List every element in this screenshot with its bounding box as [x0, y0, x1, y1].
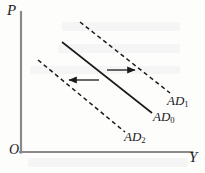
curve-label-ad2-subscript: 2	[141, 135, 145, 145]
curve-label-ad1: AD1	[167, 94, 189, 109]
curve-label-ad1-subscript: 1	[184, 99, 188, 109]
curve-label-ad2: AD2	[124, 130, 146, 145]
curve-label-ad2-base: AD	[124, 129, 141, 144]
curve-ad2	[38, 60, 125, 132]
price-level-axis-label: P	[7, 3, 16, 18]
curve-label-ad0-subscript: 0	[170, 115, 174, 125]
output-axis-label: Y	[189, 150, 197, 165]
diagram-canvas	[0, 0, 205, 173]
curve-ad1	[80, 22, 170, 93]
origin-label: O	[9, 143, 19, 157]
curve-label-ad0-base: AD	[153, 109, 170, 124]
curve-label-ad1-base: AD	[167, 93, 184, 108]
curve-ad0	[62, 42, 152, 113]
curve-label-ad0: AD0	[153, 110, 175, 125]
ad-shift-diagram: P O Y AD1 AD0 AD2	[0, 0, 205, 173]
